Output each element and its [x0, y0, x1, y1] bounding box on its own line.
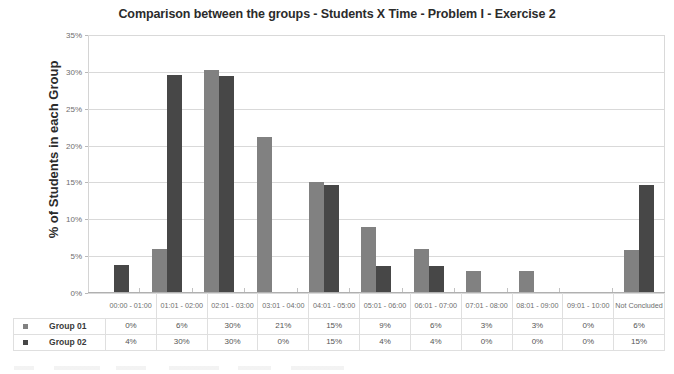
table-column-header: 00:00 - 01:00 — [106, 293, 157, 319]
table-corner-cell — [31, 293, 106, 319]
table-value-cell: 30% — [207, 335, 258, 351]
table-corner-cell — [14, 293, 31, 319]
cropped-caption-fragment — [14, 366, 344, 370]
bar-group-02 — [219, 76, 234, 293]
table-header-row: 00:00 - 01:0001:01 - 02:0002:01 - 03:000… — [14, 293, 665, 319]
legend-swatch-cell — [14, 335, 31, 351]
table-column-header: Not Concluded — [614, 293, 665, 319]
bar-group-02 — [429, 266, 444, 293]
table-value-cell: 0% — [106, 319, 157, 335]
y-tick-label: 20% — [66, 141, 82, 150]
series-name-cell: Group 01 — [31, 319, 106, 335]
table-value-cell: 6% — [156, 319, 207, 335]
legend-square-icon — [23, 324, 28, 329]
bar-group-02 — [324, 185, 339, 293]
y-tick-label: 15% — [66, 178, 82, 187]
table-column-header: 04:01 - 05:00 — [309, 293, 360, 319]
table-column-header: 02:01 - 03:00 — [207, 293, 258, 319]
table-value-cell: 4% — [106, 335, 157, 351]
table-value-cell: 9% — [360, 319, 411, 335]
bar-group — [140, 35, 192, 293]
table-value-cell: 30% — [207, 319, 258, 335]
table-value-cell: 0% — [563, 335, 614, 351]
table-row: Group 010%6%30%21%15%9%6%3%3%0%6% — [14, 319, 665, 335]
y-tick-label: 10% — [66, 215, 82, 224]
bar-group — [298, 35, 350, 293]
table-value-cell: 0% — [461, 335, 512, 351]
table-column-header: 08:01 - 09:00 — [512, 293, 563, 319]
bar-group-02 — [114, 265, 129, 293]
legend-swatch-cell — [14, 319, 31, 335]
table-value-cell: 4% — [360, 335, 411, 351]
table-value-cell: 0% — [563, 319, 614, 335]
bar-group — [403, 35, 455, 293]
y-tick-label: 35% — [66, 31, 82, 40]
bar-group-01 — [466, 271, 481, 293]
table-value-cell: 3% — [512, 319, 563, 335]
y-axis-title: % of Students in each Group — [46, 35, 61, 265]
table-column-header: 05:01 - 06:00 — [360, 293, 411, 319]
bar-group — [560, 35, 612, 293]
table-value-cell: 21% — [258, 319, 309, 335]
bar-group-01 — [309, 182, 324, 293]
bar-group — [245, 35, 297, 293]
bar-group-01 — [361, 227, 376, 293]
data-table: 00:00 - 01:0001:01 - 02:0002:01 - 03:000… — [13, 293, 665, 351]
plot-area: 35%30%25%20%15%10%5%0% — [88, 35, 665, 293]
y-tick-label: 30% — [66, 67, 82, 76]
bars-layer — [88, 35, 665, 293]
chart-container: Comparison between the groups - Students… — [0, 0, 674, 374]
table-value-cell: 15% — [309, 335, 360, 351]
table-column-header: 03:01 - 04:00 — [258, 293, 309, 319]
y-tick-label: 25% — [66, 104, 82, 113]
table-row: Group 024%30%30%0%15%4%4%0%0%0%15% — [14, 335, 665, 351]
bar-group-01 — [414, 249, 429, 293]
table-value-cell: 15% — [309, 319, 360, 335]
bar-group-02 — [639, 185, 654, 293]
table-value-cell: 4% — [410, 335, 461, 351]
y-tick-label: 5% — [70, 252, 82, 261]
table-value-cell: 6% — [410, 319, 461, 335]
bar-group-02 — [376, 266, 391, 293]
table-value-cell: 0% — [258, 335, 309, 351]
bar-group — [508, 35, 560, 293]
bar-group-01 — [519, 271, 534, 293]
bar-group-01 — [624, 250, 639, 293]
table-value-cell: 6% — [614, 319, 665, 335]
bar-group-01 — [257, 137, 272, 293]
table-value-cell: 30% — [156, 335, 207, 351]
legend-square-icon — [23, 340, 28, 345]
bar-group — [193, 35, 245, 293]
series-name-cell: Group 02 — [31, 335, 106, 351]
table-column-header: 09:01 - 10:00 — [563, 293, 614, 319]
table-column-header: 07:01 - 08:00 — [461, 293, 512, 319]
bar-group-01 — [204, 70, 219, 293]
bar-group-02 — [167, 75, 182, 293]
bar-group-01 — [152, 249, 167, 293]
table-value-cell: 15% — [614, 335, 665, 351]
bar-group — [613, 35, 665, 293]
table-value-cell: 3% — [461, 319, 512, 335]
table-column-header: 06:01 - 07:00 — [410, 293, 461, 319]
table-column-header: 01:01 - 02:00 — [156, 293, 207, 319]
chart-title: Comparison between the groups - Students… — [0, 7, 674, 21]
bar-group — [88, 35, 140, 293]
bar-group — [350, 35, 402, 293]
table-value-cell: 0% — [512, 335, 563, 351]
bar-group — [455, 35, 507, 293]
